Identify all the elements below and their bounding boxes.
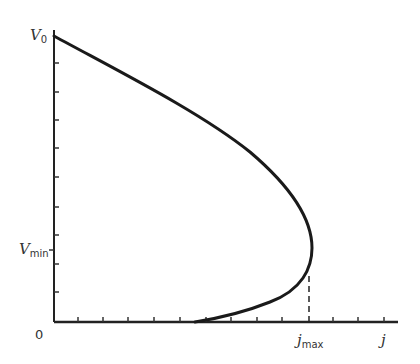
j-axis-label: j [381, 333, 386, 348]
jmax-label: jmax [297, 333, 323, 350]
v-j-curve [54, 36, 312, 322]
origin-label: 0 [35, 327, 43, 342]
v-j-curve-chart [0, 0, 420, 364]
v0-label: V0 [30, 28, 47, 45]
vmin-label: Vmin [19, 242, 49, 259]
